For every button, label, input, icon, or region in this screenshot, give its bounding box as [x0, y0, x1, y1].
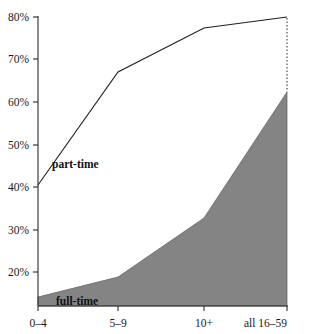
part-time-series-label: part-time: [52, 158, 99, 171]
x-tick-label-all-16-59: all 16–59: [244, 317, 287, 329]
full-time-series-label: full-time: [56, 295, 98, 307]
y-tick-label-30: 30%: [8, 224, 30, 236]
x-tick-label-10-plus: 10+: [195, 317, 213, 329]
y-tick-label-20: 20%: [8, 266, 30, 278]
x-tick-label-5-9: 5–9: [109, 317, 127, 329]
full-time-area-series: [38, 92, 287, 306]
x-tick-label-0-4: 0–4: [29, 317, 47, 329]
chart-svg: 80% 70% 60% 50% 40% 30% 20% 0–4 5–9 10+ …: [0, 0, 313, 334]
y-tick-label-80: 80%: [8, 11, 30, 23]
y-tick-label-60: 60%: [8, 96, 30, 108]
y-tick-label-50: 50%: [8, 139, 30, 151]
y-tick-label-70: 70%: [8, 53, 30, 65]
y-tick-label-40: 40%: [8, 181, 30, 193]
chart-container: 80% 70% 60% 50% 40% 30% 20% 0–4 5–9 10+ …: [0, 0, 313, 334]
